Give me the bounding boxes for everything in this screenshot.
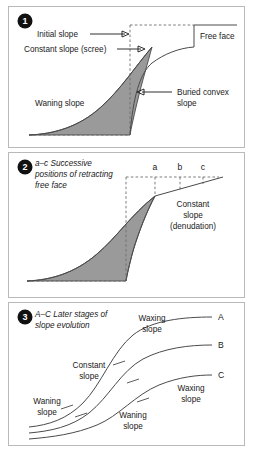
label-curve-a: A: [218, 312, 224, 322]
label-waning-slope-left-line2: slope: [37, 408, 57, 417]
tick-mark-b2: [127, 379, 139, 383]
label-buried-convex-slope-line1: Buried convex: [177, 88, 229, 97]
label-mark-a: a: [153, 162, 158, 172]
panel-3: 3 A–C Later stages of slope evolution A …: [8, 302, 245, 446]
panel-2-badge-number: 2: [22, 162, 27, 172]
panel-2-caption-line2: positions of retracting: [34, 170, 113, 179]
label-waning-slope-mid-line2: slope: [123, 422, 143, 431]
label-waning-slope-mid-line1: Waning: [119, 411, 147, 420]
label-waxing-slope-right-line1: Waxing: [178, 384, 205, 393]
label-mark-b: b: [178, 162, 183, 172]
panel-2-caption-line1: a–c Successive: [35, 159, 92, 168]
label-curve-c: C: [218, 370, 224, 380]
panel-1: 1 Initial slope Constant slope (scree) F…: [8, 6, 245, 148]
tick-mark-c1: [137, 398, 149, 402]
label-constant-slope-scree: Constant slope (scree): [24, 45, 107, 54]
tick-mark-a1: [61, 405, 73, 409]
label-constant-slope-line2: slope: [79, 372, 99, 381]
label-constant-slope-line1: Constant: [73, 361, 106, 370]
label-initial-slope: Initial slope: [37, 30, 78, 39]
label-free-face: Free face: [200, 32, 235, 41]
label-buried-convex-slope-line2: slope: [177, 99, 197, 108]
debris-wedge-shape: [27, 196, 155, 281]
panel-3-caption-line2: slope evolution: [35, 321, 90, 330]
label-constant-slope-line1: Constant: [177, 200, 210, 209]
panel-1-diagram: 1 Initial slope Constant slope (scree) F…: [9, 7, 244, 147]
label-waxing-slope-right-line2: slope: [181, 395, 201, 404]
label-curve-b: B: [218, 340, 224, 350]
panel-2-diagram: 2 a–c Successive positions of retracting…: [9, 153, 244, 297]
panel-2: 2 a–c Successive positions of retracting…: [8, 152, 245, 298]
debris-wedge-shape: [29, 47, 152, 135]
slope-evolution-figure: 1 Initial slope Constant slope (scree) F…: [0, 0, 253, 459]
panel-1-badge-number: 1: [22, 16, 27, 26]
label-waning-slope: Waning slope: [35, 99, 85, 108]
tick-mark-b1: [75, 413, 87, 417]
label-waxing-slope-top-line2: slope: [142, 325, 162, 334]
panel-3-diagram: 3 A–C Later stages of slope evolution A …: [9, 303, 244, 445]
label-waning-slope-left-line1: Waning: [33, 397, 61, 406]
panel-3-badge-number: 3: [22, 312, 27, 322]
panel-3-caption-line1: A–C Later stages of: [34, 310, 108, 319]
label-waxing-slope-top-line1: Waxing: [139, 314, 166, 323]
label-mark-c: c: [201, 162, 206, 172]
label-constant-slope-line3: (denudation): [170, 222, 216, 231]
tick-mark-a2: [113, 361, 125, 365]
panel-2-caption-line3: free face: [35, 181, 67, 190]
label-constant-slope-line2: slope: [183, 211, 203, 220]
constant-slope-denudation-line: [155, 177, 223, 196]
